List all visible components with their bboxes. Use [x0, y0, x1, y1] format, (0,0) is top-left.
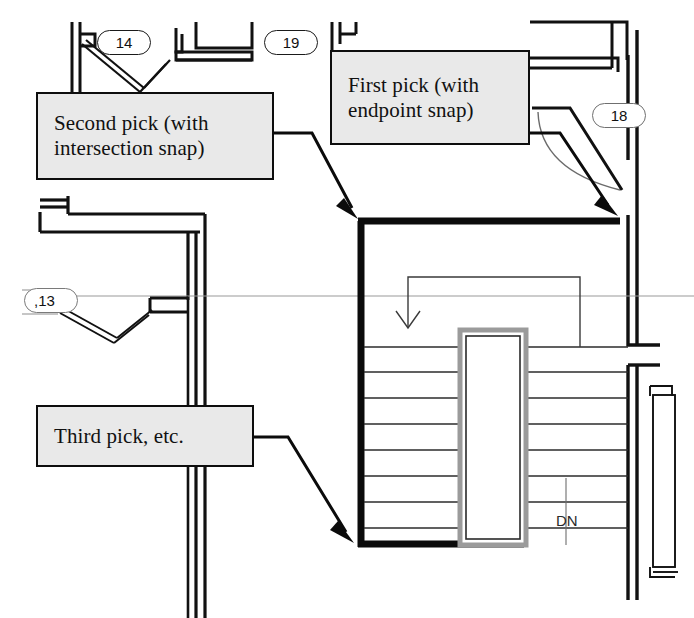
- room-tag-19[interactable]: 19: [264, 30, 318, 55]
- room-tag-13[interactable]: ,13: [24, 288, 78, 313]
- room-tag-18-label: 18: [611, 107, 628, 124]
- room-tag-13-label: ,13: [34, 292, 55, 309]
- room-tag-14-label: 14: [116, 34, 133, 51]
- room-tag-18[interactable]: 18: [592, 103, 646, 128]
- callout-second-pick[interactable]: Second pick (with intersection snap): [36, 92, 274, 180]
- room-tag-14[interactable]: 14: [97, 30, 151, 55]
- callout-third-pick-text: Third pick, etc.: [38, 424, 184, 449]
- callout-second-pick-text: Second pick (with intersection snap): [38, 111, 209, 161]
- callout-first-pick-text: First pick (with endpoint snap): [332, 73, 479, 123]
- floor-plan-canvas: Second pick (with intersection snap) Fir…: [0, 0, 694, 618]
- stair-direction-label: DN: [556, 512, 578, 529]
- room-tag-19-label: 19: [283, 34, 300, 51]
- callout-third-pick[interactable]: Third pick, etc.: [36, 405, 254, 467]
- callout-first-pick[interactable]: First pick (with endpoint snap): [330, 50, 530, 145]
